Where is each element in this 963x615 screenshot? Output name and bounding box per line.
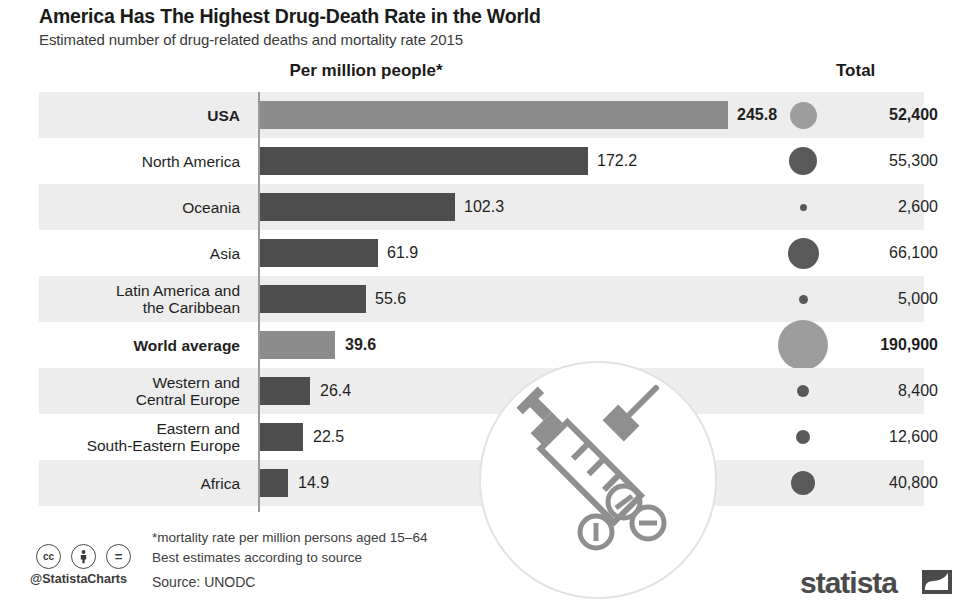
chart-row[interactable]: Africa14.940,800 xyxy=(0,460,963,506)
column-header-total: Total xyxy=(836,61,946,81)
value-bar xyxy=(260,423,303,451)
category-label: Africa xyxy=(39,460,249,506)
category-label: Asia xyxy=(39,230,249,276)
chart-row[interactable]: Eastern and South-Eastern Europe22.512,6… xyxy=(0,414,963,460)
value-bar xyxy=(260,331,335,359)
value-bar xyxy=(260,193,455,221)
value-label: 61.9 xyxy=(387,230,418,276)
total-label: 12,600 xyxy=(836,414,946,460)
total-bubble xyxy=(797,385,809,397)
value-label: 39.6 xyxy=(345,322,376,368)
creative-commons-badges: cc = xyxy=(36,544,146,570)
chart-row[interactable]: Latin America and the Caribbean55.65,000 xyxy=(0,276,963,322)
value-label: 172.2 xyxy=(597,138,637,184)
total-bubble xyxy=(791,471,815,495)
axis-baseline xyxy=(258,92,260,512)
value-bar xyxy=(260,101,728,129)
total-bubble xyxy=(778,320,828,370)
total-label: 52,400 xyxy=(836,92,946,138)
total-bubble-cell xyxy=(772,322,834,368)
total-bubble xyxy=(788,238,819,269)
total-label: 2,600 xyxy=(836,184,946,230)
chart-row[interactable]: Oceania102.32,600 xyxy=(0,184,963,230)
total-bubble-cell xyxy=(772,368,834,414)
category-label: Oceania xyxy=(39,184,249,230)
total-bubble-cell xyxy=(772,460,834,506)
category-label: North America xyxy=(39,138,249,184)
total-label: 8,400 xyxy=(836,368,946,414)
source-label: Source: UNODC xyxy=(152,574,255,590)
category-label: USA xyxy=(39,92,249,138)
page-subtitle: Estimated number of drug-related deaths … xyxy=(39,31,799,48)
chart-row[interactable]: USA245.852,400 xyxy=(0,92,963,138)
page-title: America Has The Highest Drug-Death Rate … xyxy=(39,5,739,28)
column-header-per-million: Per million people* xyxy=(246,61,486,81)
statista-logo-text: statista xyxy=(800,566,897,600)
total-label: 66,100 xyxy=(836,230,946,276)
chart-row[interactable]: World average39.6190,900 xyxy=(0,322,963,368)
value-label: 102.3 xyxy=(464,184,504,230)
plot-area: USA245.852,400North America172.255,300Oc… xyxy=(0,92,963,512)
value-label: 26.4 xyxy=(320,368,351,414)
total-bubble xyxy=(799,295,808,304)
category-label: Western and Central Europe xyxy=(39,368,249,414)
value-bar xyxy=(260,469,288,497)
value-bar xyxy=(260,147,588,175)
value-bar xyxy=(260,377,310,405)
value-label: 55.6 xyxy=(375,276,406,322)
category-label: Latin America and the Caribbean xyxy=(39,276,249,322)
total-bubble-cell xyxy=(772,92,834,138)
chart-row[interactable]: Western and Central Europe26.48,400 xyxy=(0,368,963,414)
value-bar xyxy=(260,239,378,267)
cc-by-person-icon xyxy=(71,544,96,569)
total-label: 5,000 xyxy=(836,276,946,322)
statista-logo-mark xyxy=(922,570,952,594)
cc-icon: cc xyxy=(36,544,61,569)
value-label: 22.5 xyxy=(313,414,344,460)
statista-chart: America Has The Highest Drug-Death Rate … xyxy=(0,0,963,615)
total-bubble xyxy=(790,102,817,129)
category-label: Eastern and South-Eastern Europe xyxy=(39,414,249,460)
category-label: World average xyxy=(39,322,249,368)
total-bubble xyxy=(800,204,807,211)
statista-handle: @StatistaCharts xyxy=(30,572,127,586)
total-bubble-cell xyxy=(772,276,834,322)
chart-row[interactable]: North America172.255,300 xyxy=(0,138,963,184)
footnote-estimates: Best estimates according to source xyxy=(152,550,362,565)
total-label: 55,300 xyxy=(836,138,946,184)
value-label: 14.9 xyxy=(298,460,329,506)
total-bubble-cell xyxy=(772,230,834,276)
footnote-mortality-rate: *mortality rate per million persons aged… xyxy=(152,530,427,545)
total-label: 190,900 xyxy=(836,322,946,368)
total-label: 40,800 xyxy=(836,460,946,506)
cc-nd-equals-icon: = xyxy=(106,544,131,569)
value-bar xyxy=(260,285,366,313)
chart-row[interactable]: Asia61.966,100 xyxy=(0,230,963,276)
total-bubble xyxy=(789,147,817,175)
total-bubble-cell xyxy=(772,138,834,184)
total-bubble xyxy=(796,430,810,444)
total-bubble-cell xyxy=(772,184,834,230)
total-bubble-cell xyxy=(772,414,834,460)
